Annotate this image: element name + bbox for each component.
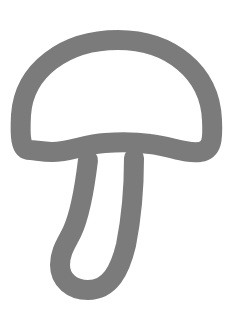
mushroom-cap-outline [21, 40, 213, 152]
mushroom-stem-outline [60, 158, 134, 290]
mushroom-icon [0, 0, 236, 313]
icon-canvas: Mushroom [0, 0, 236, 313]
